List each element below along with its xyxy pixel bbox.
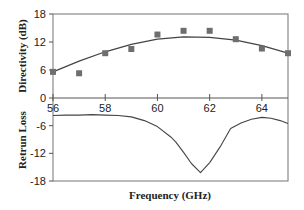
data-marker	[285, 50, 291, 56]
y-tick-label: -6	[36, 120, 46, 132]
chart: 061218 -6-12-18 5658606264 Directivity (…	[0, 0, 304, 210]
y-tick-label: -12	[30, 147, 46, 159]
data-marker	[76, 70, 82, 76]
y-tick-label: 0	[40, 92, 46, 104]
data-marker	[154, 32, 160, 38]
y-tick-label: 6	[40, 64, 46, 76]
data-marker	[259, 46, 265, 52]
x-tick-label: 60	[151, 102, 163, 114]
x-tick-label: 62	[204, 102, 216, 114]
data-marker	[128, 46, 134, 52]
data-marker	[50, 69, 56, 75]
top-y-axis: 061218	[34, 8, 53, 104]
bottom-y-axis-title: Retrun Loss	[16, 110, 28, 168]
return-loss-curve	[53, 115, 288, 173]
bottom-y-axis: -6-12-18	[30, 120, 53, 187]
x-tick-label: 58	[99, 102, 111, 114]
x-axis: 5658606264	[47, 94, 268, 114]
x-axis-title: Frequency (GHz)	[129, 189, 211, 202]
x-tick-label: 56	[47, 102, 59, 114]
data-marker	[181, 28, 187, 34]
y-tick-label: 12	[34, 36, 46, 48]
fit-curve	[53, 37, 288, 72]
data-marker	[207, 28, 213, 34]
directivity-plot	[50, 28, 291, 76]
y-tick-label: 18	[34, 8, 46, 20]
data-marker	[102, 50, 108, 56]
top-y-axis-title: Directivity (dB)	[16, 19, 29, 93]
y-tick-label: -18	[30, 175, 46, 187]
plot-frame	[53, 14, 288, 181]
x-tick-label: 64	[256, 102, 268, 114]
data-marker	[233, 36, 239, 42]
return-loss-plot	[53, 115, 288, 173]
